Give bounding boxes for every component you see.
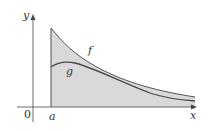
a-label: a xyxy=(49,111,56,122)
y-axis-label: y xyxy=(23,10,29,21)
origin-label: 0 xyxy=(24,109,31,120)
f-label: f xyxy=(88,45,92,56)
area-between-curves-diagram xyxy=(0,0,209,131)
y-axis-arrow-icon xyxy=(31,14,36,20)
g-label: g xyxy=(66,66,73,77)
x-axis-label: x xyxy=(190,110,196,121)
